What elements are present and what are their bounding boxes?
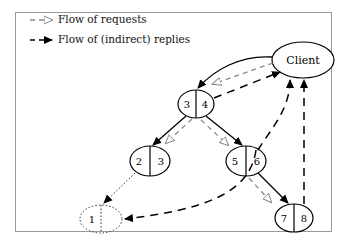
svg-text:2: 2 xyxy=(136,156,142,167)
node-2-3: 2 3 xyxy=(130,146,170,176)
svg-text:3: 3 xyxy=(184,99,190,110)
svg-text:5: 5 xyxy=(232,156,238,167)
node-3-4: 3 4 xyxy=(178,90,214,118)
svg-text:Client: Client xyxy=(286,54,320,67)
solid-edges xyxy=(153,57,288,203)
svg-text:1: 1 xyxy=(89,214,95,225)
node-5-6: 5 6 xyxy=(226,146,266,176)
svg-text:4: 4 xyxy=(202,99,208,110)
svg-text:3: 3 xyxy=(158,156,164,167)
diagram-canvas: Client 3 4 2 3 5 6 7 8 1 xyxy=(0,0,354,247)
node-7-8: 7 8 xyxy=(275,204,313,232)
request-edges xyxy=(166,63,273,202)
node-1: 1 xyxy=(80,205,122,233)
svg-text:8: 8 xyxy=(301,213,307,224)
dotted-edge xyxy=(104,173,135,203)
client-node: Client xyxy=(272,42,334,78)
svg-text:7: 7 xyxy=(281,213,287,224)
